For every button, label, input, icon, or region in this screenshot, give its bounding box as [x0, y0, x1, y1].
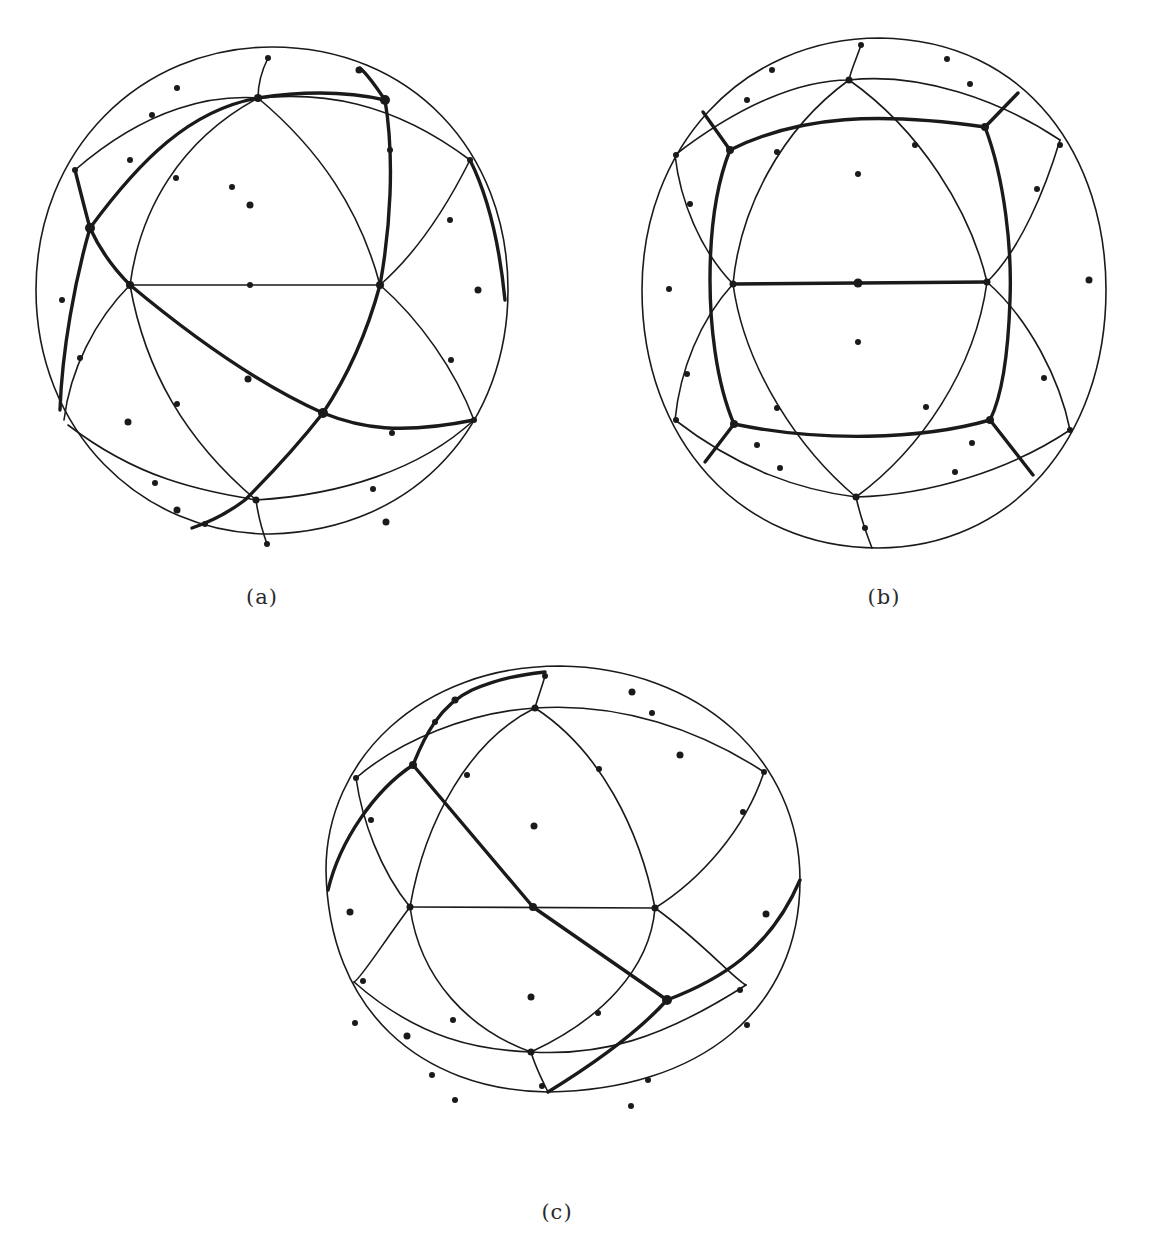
panel-label-a: (a): [246, 585, 278, 609]
panel-label-b: (b): [868, 585, 901, 609]
figure-canvas: [0, 0, 1156, 1254]
panel-label-c: (c): [541, 1200, 572, 1224]
sphere-b: [642, 38, 1106, 548]
sphere-a: [36, 47, 508, 547]
sphere-c: [326, 666, 800, 1109]
